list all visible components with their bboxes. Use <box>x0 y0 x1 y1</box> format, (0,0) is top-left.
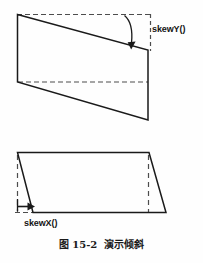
skewy-shape <box>18 15 149 121</box>
skewx-shape <box>18 153 167 213</box>
skewy-illustration <box>17 14 151 120</box>
figure-caption-title: 演示倾斜 <box>104 239 144 250</box>
skewx-illustration <box>15 153 166 214</box>
figure-caption-number: 图 15-2 <box>59 239 98 250</box>
skew-figure: skewY() skewX() 图 15-2演示倾斜 <box>0 0 203 263</box>
skewy-arrow-curve <box>125 16 132 44</box>
skewx-label: skewX() <box>24 219 57 228</box>
skewy-label: skewY() <box>152 25 185 34</box>
figure-caption: 图 15-2演示倾斜 <box>0 240 203 250</box>
